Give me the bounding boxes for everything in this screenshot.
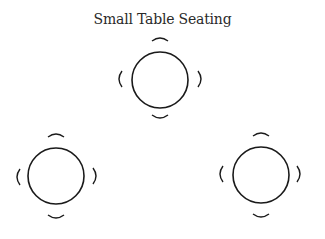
table-top bbox=[119, 38, 201, 118]
seat-left-icon bbox=[17, 169, 20, 185]
seat-left-icon bbox=[119, 71, 122, 87]
table-bottom-right bbox=[220, 133, 300, 217]
seat-right-icon bbox=[93, 168, 96, 184]
seat-left-icon bbox=[220, 166, 223, 182]
seat-bottom-icon bbox=[253, 214, 269, 217]
round-table-icon bbox=[233, 147, 289, 203]
seat-top-icon bbox=[253, 133, 269, 136]
seat-right-icon bbox=[297, 166, 300, 182]
table-bottom-left bbox=[17, 134, 96, 218]
seat-bottom-icon bbox=[48, 215, 64, 218]
round-table-icon bbox=[132, 52, 188, 108]
seat-top-icon bbox=[48, 134, 64, 137]
seat-right-icon bbox=[198, 71, 201, 87]
seat-top-icon bbox=[152, 38, 168, 41]
seating-diagram bbox=[0, 0, 325, 239]
seat-bottom-icon bbox=[152, 115, 168, 118]
round-table-icon bbox=[28, 148, 84, 204]
